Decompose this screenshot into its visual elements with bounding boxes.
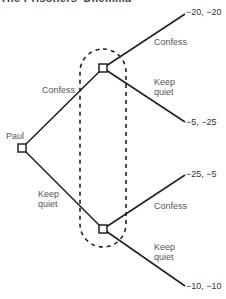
branch-label-top-keep-1: Keep [154,77,175,87]
edge-paul-confess [22,68,103,148]
payoff-confess-keep: −5, −25 [186,117,217,127]
branch-label-bottom-keep-1: Keep [154,242,175,252]
payoff-keep-keep: −10, −10 [186,281,222,291]
node-bottom [99,225,107,233]
branch-label-paul-keep-1: Keep [38,189,59,199]
branch-label-paul-confess: Confess [42,85,75,95]
game-tree [0,0,226,299]
branch-label-paul-keep-2: quiet [38,199,58,209]
payoff-confess-confess: −20, −20 [186,7,222,17]
branch-label-top-confess: Confess [154,37,187,47]
branch-label-top-keep-2: quiet [154,87,174,97]
player-label-paul: Paul [6,131,24,141]
payoff-keep-confess: −25, −5 [186,169,217,179]
node-paul [18,144,26,152]
branch-label-bottom-confess: Confess [154,201,187,211]
node-top [99,64,107,72]
branch-label-bottom-keep-2: quiet [154,252,174,262]
edge-paul-keep-quiet [22,148,103,229]
